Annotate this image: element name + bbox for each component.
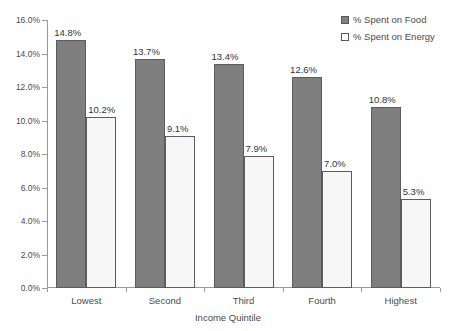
- bar-group: 12.6%7.0%: [292, 20, 352, 288]
- bar-energy[interactable]: [322, 171, 352, 288]
- bar-group: 14.8%10.2%: [56, 20, 116, 288]
- x-axis-title: Income Quintile: [0, 312, 456, 323]
- bar-chart: % Spent on Food % Spent on Energy 0.0%2.…: [0, 0, 456, 331]
- bar-value-label-energy: 7.0%: [324, 158, 346, 169]
- y-axis-tick-label: 4.0%: [21, 217, 40, 226]
- y-axis-tick-label: 8.0%: [21, 150, 40, 159]
- x-axis-tick: [204, 288, 205, 292]
- bar-energy[interactable]: [401, 199, 431, 288]
- y-axis-tick: [42, 154, 47, 155]
- x-axis-tick: [440, 288, 441, 292]
- x-axis-category-label: Second: [149, 295, 181, 306]
- bar-value-label-food: 13.4%: [212, 51, 239, 62]
- y-axis-tick: [42, 121, 47, 122]
- plot-area: 0.0%2.0%4.0%6.0%8.0%10.0%12.0%14.0%16.0%…: [47, 20, 440, 288]
- y-axis-tick-label: 0.0%: [21, 284, 40, 293]
- bar-value-label-food: 12.6%: [290, 64, 317, 75]
- y-axis-tick: [42, 20, 47, 21]
- bar-value-label-energy: 9.1%: [167, 123, 189, 134]
- y-axis-line: [47, 20, 48, 288]
- bar-value-label-food: 10.8%: [369, 94, 396, 105]
- bar-value-label-energy: 10.2%: [88, 104, 115, 115]
- x-axis-category-label: Third: [233, 295, 255, 306]
- bar-food[interactable]: [214, 64, 244, 288]
- y-axis-tick: [42, 54, 47, 55]
- bar-group: 10.8%5.3%: [371, 20, 431, 288]
- bar-energy[interactable]: [165, 136, 195, 288]
- bar-food[interactable]: [292, 77, 322, 288]
- bar-value-label-energy: 5.3%: [403, 186, 425, 197]
- bar-food[interactable]: [371, 107, 401, 288]
- x-axis-category-label: Highest: [385, 295, 417, 306]
- y-axis-tick-label: 6.0%: [21, 183, 40, 192]
- y-axis-tick-label: 12.0%: [16, 83, 40, 92]
- x-axis-category-label: Fourth: [308, 295, 335, 306]
- y-axis-tick-label: 2.0%: [21, 250, 40, 259]
- bar-food[interactable]: [56, 40, 86, 288]
- y-axis-tick: [42, 188, 47, 189]
- x-axis-tick: [126, 288, 127, 292]
- bar-value-label-energy: 7.9%: [246, 143, 268, 154]
- bar-value-label-food: 14.8%: [54, 27, 81, 38]
- x-axis-category-label: Lowest: [71, 295, 101, 306]
- bar-value-label-food: 13.7%: [133, 46, 160, 57]
- bar-food[interactable]: [135, 59, 165, 288]
- x-axis-tick: [361, 288, 362, 292]
- y-axis-tick-label: 16.0%: [16, 16, 40, 25]
- x-axis-tick: [47, 288, 48, 292]
- bar-group: 13.7%9.1%: [135, 20, 195, 288]
- bar-group: 13.4%7.9%: [214, 20, 274, 288]
- bar-energy[interactable]: [244, 156, 274, 288]
- y-axis-tick-label: 10.0%: [16, 116, 40, 125]
- bar-energy[interactable]: [86, 117, 116, 288]
- y-axis-tick-label: 14.0%: [16, 49, 40, 58]
- y-axis-tick: [42, 87, 47, 88]
- y-axis-tick: [42, 255, 47, 256]
- x-axis-tick: [283, 288, 284, 292]
- y-axis-tick: [42, 221, 47, 222]
